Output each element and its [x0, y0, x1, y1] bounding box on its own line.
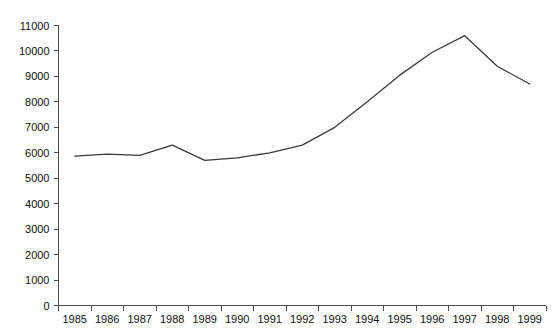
x-axis-tick-label: 1989 — [193, 313, 217, 325]
y-axis-tick-label: 2000 — [25, 249, 49, 261]
x-axis-tick-label: 1995 — [388, 313, 412, 325]
y-axis-tick-label: 3000 — [25, 223, 49, 235]
x-axis-tick-label: 1997 — [453, 313, 477, 325]
x-axis-tick-label: 1985 — [63, 313, 87, 325]
y-axis-tick-label: 9000 — [25, 70, 49, 82]
chart-container: 0100020003000400050006000700080009000100… — [0, 0, 558, 333]
x-axis-tick-label: 1990 — [225, 313, 249, 325]
line-chart: 0100020003000400050006000700080009000100… — [0, 0, 558, 333]
x-axis-tick-label: 1994 — [355, 313, 379, 325]
x-axis-tick-label: 1998 — [485, 313, 509, 325]
x-axis-tick-label: 1999 — [518, 313, 542, 325]
x-axis-tick-label: 1993 — [323, 313, 347, 325]
y-axis-tick-label: 0 — [43, 300, 49, 312]
y-axis-tick-label: 5000 — [25, 172, 49, 184]
x-axis-tick-label: 1986 — [95, 313, 119, 325]
x-axis-tick-label: 1991 — [258, 313, 282, 325]
x-axis-tick-label: 1987 — [128, 313, 152, 325]
y-axis-tick-label: 10000 — [19, 45, 50, 57]
chart-background — [0, 0, 558, 333]
y-axis-tick-label: 6000 — [25, 147, 49, 159]
x-axis-tick-label: 1988 — [160, 313, 184, 325]
y-axis-tick-label: 4000 — [25, 198, 49, 210]
x-axis-tick-label: 1996 — [420, 313, 444, 325]
y-axis-tick-label: 11000 — [20, 20, 50, 32]
y-axis-tick-label: 8000 — [25, 96, 49, 108]
y-axis-tick-label: 1000 — [25, 274, 49, 286]
y-axis-tick-label: 7000 — [25, 121, 49, 133]
x-axis-tick-labels: 1985198619871988198919901991199219931994… — [63, 313, 542, 325]
x-axis-tick-label: 1992 — [290, 313, 314, 325]
